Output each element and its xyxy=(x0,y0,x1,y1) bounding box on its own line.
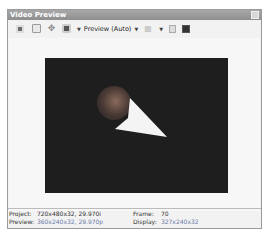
status-bar: Project: 720x480x32, 29.970i Preview: 36… xyxy=(8,208,261,228)
display-row: Display: 327x240x32 xyxy=(133,218,199,226)
overlay-icon[interactable]: ✥ xyxy=(47,24,56,33)
project-label: Project: xyxy=(9,210,35,218)
grid-dropdown-icon[interactable]: ▼ xyxy=(159,26,163,32)
grid-icon[interactable]: ▦ xyxy=(144,24,153,33)
display-label: Display: xyxy=(133,218,159,226)
split-screen-icon[interactable] xyxy=(16,25,24,33)
video-frame[interactable] xyxy=(45,58,228,193)
display-value: 327x240x32 xyxy=(161,218,199,225)
frame-row: Frame: 70 xyxy=(133,210,169,218)
preview-area xyxy=(9,38,260,211)
project-value: 720x480x32, 29.970i xyxy=(37,210,101,217)
preview-label: Preview: xyxy=(9,218,35,226)
preview-mode-label: Preview (Auto) xyxy=(84,25,132,33)
window-title: Video Preview xyxy=(10,10,66,20)
frame-value: 70 xyxy=(161,210,169,217)
chevron-down-icon: ▼ xyxy=(134,26,138,32)
toolbar: ✥ ▼ Preview (Auto) ▼ ▦ ▼ xyxy=(8,20,261,37)
copy-snapshot-icon[interactable] xyxy=(169,25,176,33)
save-snapshot-icon[interactable] xyxy=(182,25,190,33)
preview-quality-icon[interactable] xyxy=(62,24,71,33)
white-triangle-shape xyxy=(45,58,228,193)
frame-label: Frame: xyxy=(133,210,159,218)
preview-row: Preview: 360x240x32, 29.970p xyxy=(9,218,103,226)
project-row: Project: 720x480x32, 29.970i xyxy=(9,210,101,218)
close-icon[interactable] xyxy=(251,11,259,19)
title-bar: Video Preview xyxy=(8,10,261,20)
external-monitor-icon[interactable] xyxy=(32,24,41,33)
preview-value: 360x240x32, 29.970p xyxy=(37,218,103,225)
preview-mode-dropdown[interactable]: ▼ Preview (Auto) ▼ xyxy=(77,25,138,33)
video-preview-window: Video Preview ✥ ▼ Preview (Auto) ▼ ▦ ▼ P… xyxy=(7,9,262,229)
dropdown-arrow-icon: ▼ xyxy=(77,26,81,32)
